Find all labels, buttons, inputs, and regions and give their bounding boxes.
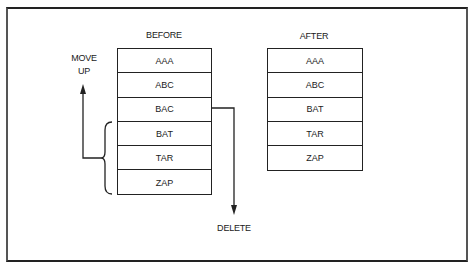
move-up-arrow-line xyxy=(83,92,101,158)
arrow-down-icon xyxy=(231,205,237,215)
delete-arrow-line xyxy=(212,108,234,206)
connector-lines xyxy=(0,0,476,270)
brace-icon xyxy=(101,122,112,194)
arrow-up-icon xyxy=(80,84,86,94)
